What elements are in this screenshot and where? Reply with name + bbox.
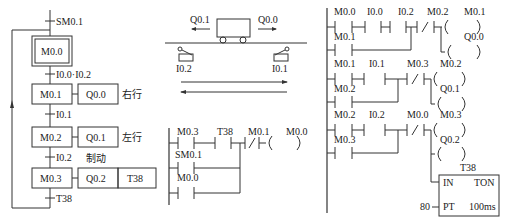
- svg-text:I0.2: I0.2: [369, 109, 385, 120]
- svg-text:M0.2: M0.2: [440, 58, 461, 69]
- svg-text:M0.0: M0.0: [334, 6, 355, 17]
- svg-text:I0.2: I0.2: [398, 6, 414, 17]
- sfc-init-transition: SM0.1: [56, 16, 83, 27]
- cart-left-output: Q0.1: [190, 14, 210, 25]
- sfc-action-q00: Q0.0: [86, 89, 106, 100]
- sfc-note-right: 右行: [122, 88, 142, 100]
- svg-text:100ms: 100ms: [469, 201, 496, 212]
- rung-3: M0.2 I0.2 M0.0 M0.3 Q0.2 M0.3: [327, 109, 499, 216]
- sfc-action-q02: Q0.2: [86, 173, 106, 184]
- limit-switch-left-icon: [178, 47, 193, 61]
- svg-text:TON: TON: [474, 177, 494, 188]
- svg-text:I0.0: I0.0: [367, 6, 383, 17]
- sfc-chart: SM0.1 M0.0 I0.0·I0.2 M0.1 Q0.0 右行 I0.1 M…: [10, 10, 156, 208]
- svg-text:Q0.0: Q0.0: [464, 31, 484, 42]
- svg-text:M0.3: M0.3: [334, 134, 355, 145]
- cart-right-switch: I0.1: [272, 63, 288, 74]
- sfc-action-t38: T38: [127, 173, 143, 184]
- lad-mid-m03-label: M0.3: [177, 126, 198, 137]
- ladder-right: M0.0 I0.0 I0.2 M0.2 M0.1 Q0.0: [327, 6, 499, 216]
- svg-text:I0.1: I0.1: [369, 58, 385, 69]
- svg-text:M0.2: M0.2: [334, 109, 355, 120]
- svg-text:T38: T38: [460, 162, 476, 173]
- sfc-action-q01: Q0.1: [86, 132, 106, 143]
- rung-2: M0.1 I0.1 M0.3 M0.2 Q0.1 M0.2: [327, 58, 465, 111]
- lad-mid-t38-label: T38: [217, 126, 233, 137]
- svg-text:M0.1: M0.1: [464, 6, 485, 17]
- sfc-step-m00: M0.0: [41, 46, 62, 57]
- lad-mid-m00-label: M0.0: [177, 172, 198, 183]
- sfc-transition-1: I0.0·I0.2: [56, 69, 91, 80]
- svg-text:IN: IN: [443, 177, 454, 188]
- svg-text:PT: PT: [443, 201, 455, 212]
- ladder-m00: M0.3 T38 M0.1 M0.0 SM0.1 M0.0: [169, 126, 307, 205]
- limit-switch-right-icon: [274, 47, 289, 61]
- sfc-step-m01: M0.1: [40, 89, 61, 100]
- svg-text:Q0.1: Q0.1: [440, 83, 460, 94]
- plc-diagram: SM0.1 M0.0 I0.0·I0.2 M0.1 Q0.0 右行 I0.1 M…: [0, 0, 505, 220]
- svg-text:80: 80: [420, 201, 430, 212]
- cart-right-output: Q0.0: [258, 14, 278, 25]
- svg-text:M0.2: M0.2: [427, 6, 448, 17]
- svg-text:M0.3: M0.3: [440, 109, 461, 120]
- lad-mid-m01-label: M0.1: [248, 126, 269, 137]
- sfc-step-m03: M0.3: [40, 173, 61, 184]
- svg-text:M0.1: M0.1: [334, 58, 355, 69]
- lad-mid-sm01-label: SM0.1: [175, 149, 202, 160]
- svg-text:M0.2: M0.2: [334, 83, 355, 94]
- cart-illustration: Q0.1 Q0.0 I0.2 I0.1: [165, 14, 307, 94]
- sfc-transition-3: I0.2: [56, 152, 72, 163]
- svg-text:Q0.2: Q0.2: [440, 134, 460, 145]
- rung-1: M0.0 I0.0 I0.2 M0.2 M0.1 Q0.0: [327, 6, 485, 59]
- sfc-step-m02: M0.2: [40, 132, 61, 143]
- lad-mid-coil-label: M0.0: [286, 126, 307, 137]
- timer-t38-block: T38 IN TON 80 PT 100ms: [420, 162, 499, 216]
- svg-text:M0.3: M0.3: [407, 58, 428, 69]
- sfc-transition-2: I0.1: [56, 109, 72, 120]
- cart-left-switch: I0.2: [176, 63, 192, 74]
- sfc-transition-4: T38: [56, 193, 72, 204]
- sfc-note-left: 左行: [122, 131, 142, 143]
- sfc-note-brake: 制动: [86, 152, 106, 164]
- svg-text:M0.0: M0.0: [407, 109, 428, 120]
- svg-text:M0.1: M0.1: [334, 31, 355, 42]
